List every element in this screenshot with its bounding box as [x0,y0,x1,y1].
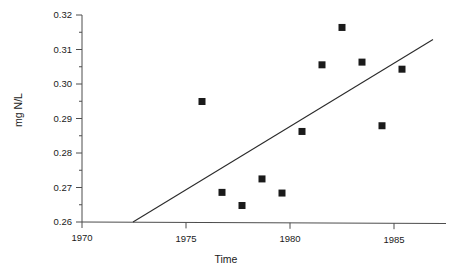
y-tick-label-0.30: 0.30 [38,79,72,89]
data-point [219,189,226,196]
x-axis-line [82,222,446,224]
y-axis-major-ticks [76,15,82,222]
data-point [359,59,366,66]
x-tick-label-1980: 1980 [270,234,310,244]
y-tick-label-0.31: 0.31 [38,45,72,55]
data-point [199,98,206,105]
data-point [319,61,326,68]
axes [82,15,446,224]
x-tick-label-1970: 1970 [62,233,102,243]
y-axis-title: mg N/L [12,70,24,150]
y-tick-label-0.28: 0.28 [38,148,72,158]
data-point [279,190,286,197]
data-point [379,122,386,129]
data-point [239,202,246,209]
data-point [339,24,346,31]
y-tick-label-0.26: 0.26 [38,217,72,227]
data-point [299,128,306,135]
x-tick-label-1975: 1975 [166,234,206,244]
data-point [259,175,266,182]
data-point-markers [199,24,406,209]
y-tick-label-0.32: 0.32 [38,10,72,20]
x-tick-label-1985: 1985 [374,235,414,245]
y-tick-label-0.27: 0.27 [38,183,72,193]
y-tick-label-0.29: 0.29 [38,114,72,124]
data-point [399,66,406,73]
scatter-chart-figure: 0.32 0.31 0.30 0.29 0.28 0.27 0.26 1970 … [0,0,452,275]
x-axis-title: Time [0,253,452,265]
